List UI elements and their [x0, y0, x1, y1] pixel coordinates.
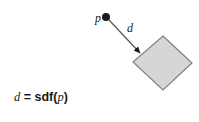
rotated-square-shape [133, 36, 192, 90]
formula-argument: p [56, 90, 63, 104]
distance-arrow-line [109, 20, 140, 53]
formula-close-paren: ) [64, 90, 68, 104]
distance-d-label: d [127, 21, 134, 35]
formula-equals: = [20, 90, 34, 104]
point-p-dot [102, 13, 110, 21]
sdf-diagram: p d d = sdf(p) [0, 0, 199, 122]
formula-function-name: sdf [35, 90, 55, 104]
formula-sdf: d = sdf(p) [14, 90, 68, 104]
point-p-label: p [94, 11, 101, 25]
figure-canvas: p d d = sdf(p) [0, 0, 199, 122]
